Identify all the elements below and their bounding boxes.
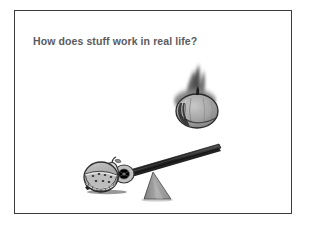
watermelon-rind [86,183,115,189]
pear-stem [112,157,116,162]
watermelon-body [84,162,118,192]
lever-board-top [85,144,221,187]
watermelon [84,162,118,192]
fruit-pile-shadow [87,190,127,194]
slide-frame: How does stuff work in real life? [14,10,292,214]
fulcrum-wedge [144,172,171,199]
pumpkin-stem [196,86,199,95]
pear [103,157,121,185]
pumpkin-body [176,86,218,128]
fruit-pile [84,157,134,194]
pear-leaf [115,159,121,162]
watermelon-slice [85,171,117,190]
fulcrum-shadow [144,173,153,199]
lever-board-edge [85,148,221,190]
watermelon-seeds [92,173,113,183]
watermelon-rind-ticks [88,183,114,192]
orange [114,165,134,183]
lever-board [85,144,221,190]
pumpkin-motion-blur [174,65,216,112]
pumpkin-left-lobe [178,103,190,127]
pear-body [103,163,119,186]
slide-root: How does stuff work in real life? [0,0,311,229]
page-title: How does stuff work in real life? [33,35,197,47]
fulcrum [141,172,173,202]
falling-pumpkin [174,65,218,128]
